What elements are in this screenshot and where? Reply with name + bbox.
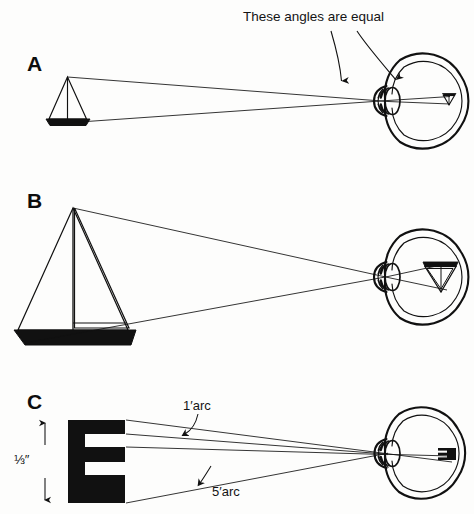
- callout-arrows: [331, 31, 396, 81]
- optotype-letter-e: [68, 420, 126, 503]
- panel-b-group: [14, 208, 468, 345]
- retinal-image-e: [438, 448, 456, 460]
- panel-a-group: [46, 31, 468, 149]
- label-five-arc: 5′arc: [212, 484, 240, 499]
- panel-c-group: [45, 407, 465, 503]
- eye-diagram-a: [374, 53, 468, 148]
- visual-angle-figure: A B C These angles are equal 1′arc 5′arc…: [0, 0, 474, 514]
- label-letter-height: ⅓″: [14, 452, 29, 467]
- callout-angles-equal: These angles are equal: [243, 9, 384, 24]
- panel-letter-b: B: [27, 189, 42, 213]
- retinal-image-a: [443, 94, 457, 106]
- object-sailboat-b: [14, 208, 136, 345]
- eye-diagram-b: [374, 229, 468, 324]
- arc-leader-five: [200, 466, 211, 483]
- panel-letter-a: A: [27, 52, 42, 76]
- figure-linework: [0, 0, 474, 514]
- light-rays-c: [126, 420, 452, 503]
- light-rays-a: [58, 77, 450, 124]
- panel-letter-c: C: [27, 390, 42, 414]
- label-one-arc: 1′arc: [183, 398, 211, 413]
- arc-leader-one: [185, 414, 198, 434]
- retinal-image-b: [423, 262, 458, 292]
- object-sailboat-a: [46, 77, 90, 126]
